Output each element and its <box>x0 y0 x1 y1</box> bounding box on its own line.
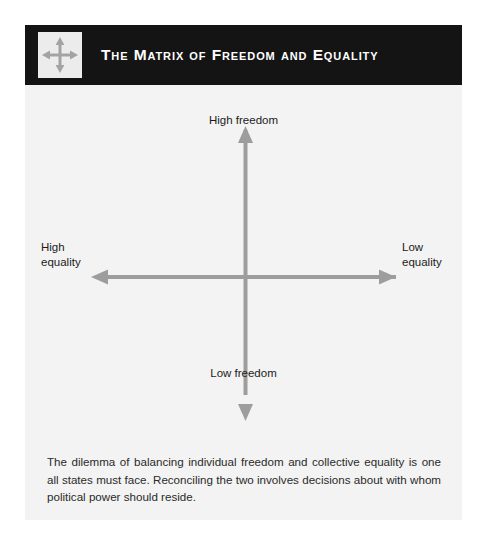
figure-caption: The dilemma of balancing individual free… <box>47 453 441 506</box>
axis-label-high-freedom: High freedom <box>25 113 462 128</box>
figure-panel: The Matrix of Freedom and Equality High … <box>25 25 462 520</box>
figure-header-bar: The Matrix of Freedom and Equality <box>25 25 462 85</box>
axis-label-low-equality: Low equality <box>402 240 442 270</box>
page-title: The Matrix of Freedom and Equality <box>101 25 456 85</box>
axis-label-low-freedom: Low freedom <box>25 366 462 381</box>
four-way-arrow-icon <box>38 32 82 78</box>
axis-label-high-equality: High equality <box>41 240 81 270</box>
quadrant-diagram: High freedom Low freedom High equality L… <box>25 85 462 430</box>
